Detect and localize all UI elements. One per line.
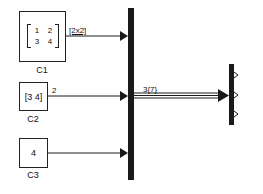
matrix-cell: 3 xyxy=(32,37,42,46)
constant-block-c3[interactable]: 4 xyxy=(19,138,48,168)
signal-label-c2: 2 xyxy=(52,86,56,95)
matrix-cell: 1 xyxy=(32,26,42,35)
matrix-cell: 2 xyxy=(45,26,55,35)
constant-block-c2[interactable]: [3 4] xyxy=(19,82,48,111)
left-bracket xyxy=(27,24,31,48)
bus-signal-label: 3{7} xyxy=(143,85,157,94)
bus-creator-block[interactable] xyxy=(128,8,134,180)
right-bracket xyxy=(55,24,59,48)
block-value: 4 xyxy=(20,148,47,158)
block-label-c3: C3 xyxy=(3,170,63,180)
bus-selector-block[interactable] xyxy=(229,64,234,125)
block-label-c2: C2 xyxy=(3,114,63,124)
matrix-cell: 4 xyxy=(45,37,55,46)
block-label-c1: C1 xyxy=(12,65,72,75)
signal-label-c1: [2x2] xyxy=(69,26,86,35)
block-value: [3 4] xyxy=(20,92,47,102)
matrix-display: 1 2 3 4 xyxy=(27,24,59,48)
constant-block-c1[interactable]: 1 2 3 4 xyxy=(19,11,66,62)
